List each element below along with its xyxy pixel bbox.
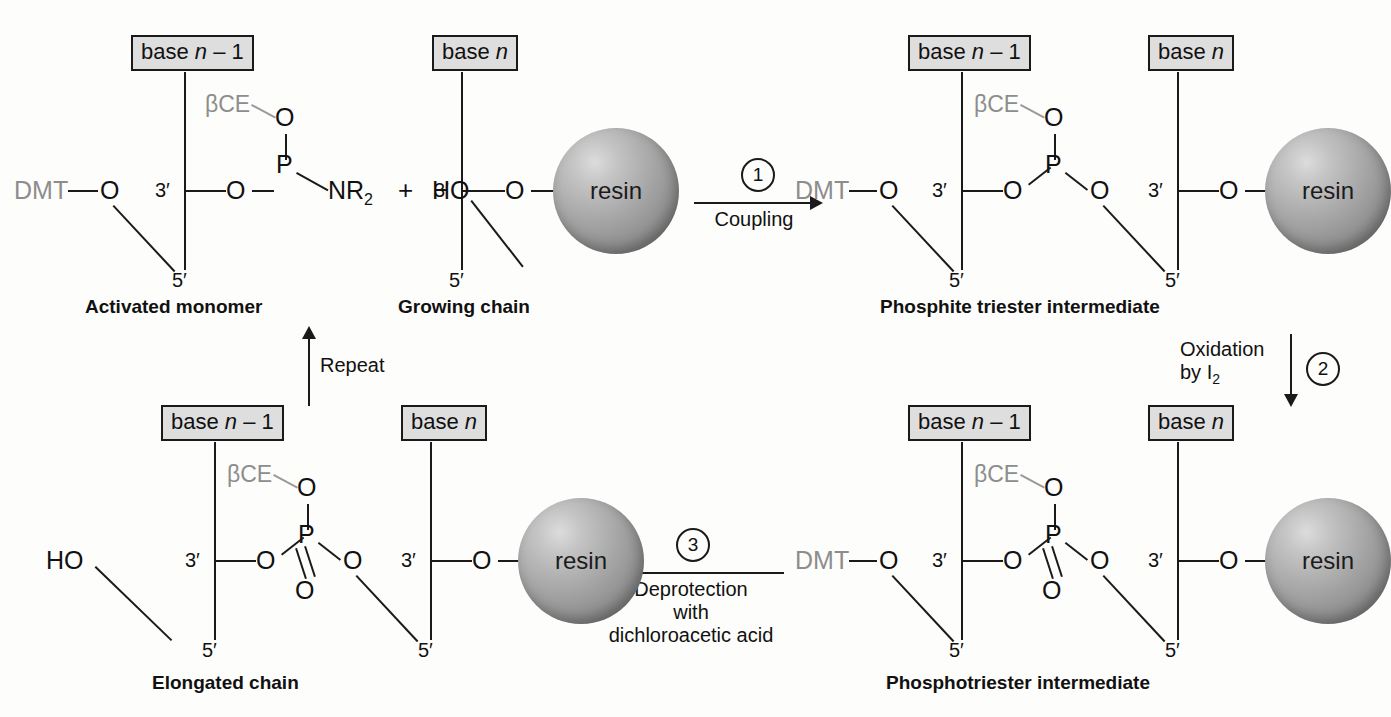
phosphorus-phosphite: P [1045, 152, 1062, 177]
bond-o-to-5prime-right [1103, 575, 1166, 642]
resin-label: resin [1302, 547, 1354, 575]
five-prime-label-elongated-right: 5′ [418, 640, 433, 660]
base-box-elongated-right: base n [401, 405, 487, 441]
base-label-text: base n – 1 [141, 39, 244, 64]
caption-phosphotriester: Phosphotriester intermediate [886, 672, 1150, 694]
sugar-backbone-line [184, 72, 186, 270]
three-prime-label-elongated-right: 3′ [401, 550, 416, 570]
base-label-text: base n [411, 409, 477, 434]
phosphorus-activated-monomer: P [276, 152, 293, 177]
three-prime-label-phosphotriester-left: 3′ [932, 550, 947, 570]
bond-p-o-right [318, 542, 341, 561]
bce-label-phosphite: βCE [974, 92, 1019, 117]
oxygen-p-left-elongated: O [256, 548, 275, 573]
three-prime-label-elongated-left: 3′ [185, 550, 200, 570]
repeat-arrow-label: Repeat [320, 354, 385, 377]
base-label-text: base n – 1 [171, 409, 274, 434]
base-box-phosphotriester-right: base n [1148, 405, 1234, 441]
bond-3prime-o-right [432, 560, 472, 562]
oxygen-double-bonded-elongated: O [295, 578, 314, 603]
sugar-backbone-line [214, 442, 216, 640]
step-2-label-line2: by I2 [1180, 361, 1220, 383]
oxygen-5prime-phosphotriester: O [879, 548, 898, 573]
sugar-backbone-line [430, 442, 432, 640]
step-3-label-line1: Deprotection [634, 578, 747, 600]
base-label-text: base n [1158, 409, 1224, 434]
caption-elongated: Elongated chain [152, 672, 299, 694]
step-3-label-line2: with [673, 601, 709, 623]
resin-label: resin [1302, 177, 1354, 205]
bond-3prime-o [963, 190, 1003, 192]
base-box-elongated-left: base n – 1 [161, 405, 284, 441]
bond-3prime-o-right [1179, 560, 1219, 562]
sugar-backbone-line [461, 72, 463, 270]
three-prime-label-phosphotriester-right: 3′ [1148, 550, 1163, 570]
bond-o-to-5prime [892, 575, 955, 642]
repeat-arrow-group: Repeat [290, 330, 420, 408]
bce-label-phosphotriester: βCE [974, 462, 1019, 487]
oxygen-5prime-activated-monomer: O [100, 178, 119, 203]
resin-bead-growing-chain: resin [553, 128, 679, 254]
resin-bead-phosphite: resin [1265, 128, 1391, 254]
bce-label-activated-monomer: βCE [205, 92, 250, 117]
bce-bond [251, 104, 276, 118]
resin-bead-elongated: resin [518, 498, 644, 624]
bond-dmt-o [68, 190, 98, 192]
step-2-number: 2 [1306, 352, 1340, 386]
oxygen-bce-phosphite: O [1044, 105, 1063, 130]
sugar-backbone-line [961, 442, 963, 640]
bond-3prime-o [186, 190, 226, 192]
repeat-arrow-shaft [308, 338, 310, 406]
bond-dmt-o [849, 560, 877, 562]
base-label-text: base n – 1 [918, 409, 1021, 434]
base-label-text: base n [442, 39, 508, 64]
nr2-group-activated-monomer: NR2 [328, 178, 373, 212]
oxygen-3prime-activated-monomer: O [226, 178, 245, 203]
oxygen-double-bonded-phosphotriester: O [1042, 578, 1061, 603]
oxygen-bce-activated-monomer: O [275, 105, 294, 130]
bond-3prime-o [216, 560, 256, 562]
three-prime-label-growing-chain: 3′ [434, 180, 449, 200]
sugar-backbone-line [1177, 442, 1179, 640]
resin-label: resin [590, 177, 642, 205]
bond-o-p [252, 190, 274, 192]
bce-label-elongated: βCE [227, 462, 272, 487]
caption-phosphite: Phosphite triester intermediate [880, 296, 1160, 318]
base-label-text: base n – 1 [918, 39, 1021, 64]
bond-o-to-5prime-right [1103, 205, 1166, 272]
dmt-label-phosphite: DMT [795, 178, 849, 203]
three-prime-label-phosphite-right: 3′ [1148, 180, 1163, 200]
bond-p-o-right [1065, 542, 1088, 561]
five-prime-label-elongated-left: 5′ [202, 640, 217, 660]
base-box-phosphite-left: base n – 1 [908, 35, 1031, 71]
oxygen-resin-elongated: O [472, 548, 491, 573]
resin-label: resin [555, 547, 607, 575]
oxygen-resin-phosphite: O [1219, 178, 1238, 203]
oxygen-p-right-elongated: O [343, 548, 362, 573]
base-box-growing-chain: base n [432, 35, 518, 71]
bond-o-to-5prime-right [356, 575, 419, 642]
resin-bead-phosphotriester: resin [1265, 498, 1391, 624]
step-2-arrow-shaft [1290, 334, 1292, 396]
p-double-bond-line-2 [304, 546, 316, 577]
bond-o-to-5prime [113, 205, 176, 272]
caption-growing-chain: Growing chain [398, 296, 530, 318]
bce-bond [1020, 104, 1045, 118]
five-prime-label-phosphite-left: 5′ [949, 270, 964, 290]
oxygen-p-left-phosphite: O [1003, 178, 1022, 203]
phosphorus-elongated: P [298, 522, 315, 547]
sugar-backbone-line [1177, 72, 1179, 270]
five-prime-label-phosphotriester-left: 5′ [949, 640, 964, 660]
five-prime-label-growing-chain: 5′ [449, 270, 464, 290]
base-box-activated-monomer: base n – 1 [131, 35, 254, 71]
base-label-text: base n [1158, 39, 1224, 64]
bce-bond [1020, 474, 1045, 488]
bond-o-to-5prime [892, 205, 955, 272]
bond-p-nr2 [296, 172, 328, 191]
step-2-arrow-head [1284, 394, 1298, 407]
ho-label-elongated: HO [46, 548, 84, 573]
oxygen-5prime-phosphite: O [879, 178, 898, 203]
base-box-phosphite-right: base n [1148, 35, 1234, 71]
dmt-label-phosphotriester: DMT [795, 548, 849, 573]
